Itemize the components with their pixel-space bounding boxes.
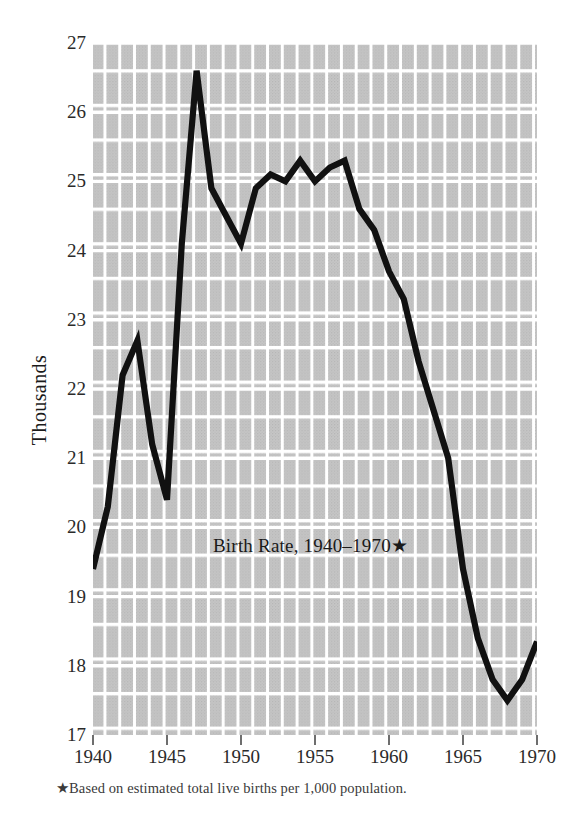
birth-rate-chart-figure: Thousands (0, 0, 577, 822)
x-tick-label: 1970 (518, 746, 556, 768)
y-tick-label: 24 (46, 241, 86, 260)
chart-title: Birth Rate, 1940–1970★ (213, 534, 408, 557)
x-tick-label: 1945 (148, 746, 186, 768)
x-tick-label: 1950 (222, 746, 260, 768)
y-tick-label: 23 (46, 310, 86, 329)
y-tick-label: 19 (46, 587, 86, 606)
x-axis-ticks (93, 735, 537, 745)
x-axis-tick-labels: 1940194519501955196019651970 (0, 746, 577, 776)
x-tick-label: 1940 (74, 746, 112, 768)
y-tick-label: 25 (46, 171, 86, 190)
y-tick-label: 27 (46, 33, 86, 52)
chart-footnote: ★Based on estimated total live births pe… (56, 780, 407, 797)
y-tick-label: 17 (46, 725, 86, 744)
y-tick-label: 26 (46, 102, 86, 121)
x-tick-label: 1955 (296, 746, 334, 768)
y-tick-label: 22 (46, 379, 86, 398)
y-tick-label: 20 (46, 517, 86, 536)
plot-area (0, 0, 577, 822)
y-axis-tick-labels: 2726252423222120191817 (42, 0, 86, 822)
y-tick-label: 21 (46, 448, 86, 467)
x-tick-label: 1960 (370, 746, 408, 768)
x-tick-label: 1965 (444, 746, 482, 768)
y-tick-label: 18 (46, 656, 86, 675)
